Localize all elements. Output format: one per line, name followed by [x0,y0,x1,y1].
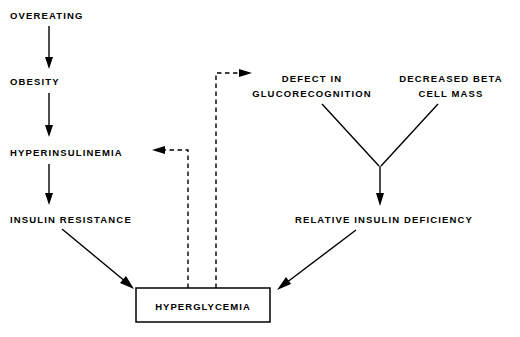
node-decreased-beta-cell-mass-line1: DECREASED BETA [399,73,503,84]
connector-insulin-resistance-to-hyperglycemia [62,229,134,289]
node-insulin-resistance: INSULIN RESISTANCE [10,214,132,225]
node-relative-insulin-deficiency: RELATIVE INSULIN DEFICIENCY [295,214,473,225]
connector-beta-cell-mass-to-junction [381,104,438,166]
connector-hyperinsulinemia-to-insulin-resistance [45,164,53,205]
node-hyperinsulinemia: HYPERINSULINEMIA [10,147,123,158]
node-hyperglycemia: HYPERGLYCEMIA [155,301,251,312]
node-decreased-beta-cell-mass-line2: CELL MASS [418,88,483,99]
flowchart-diagram: OVEREATING OBESITY HYPERINSULINEMIA INSU… [0,0,520,337]
connector-obesity-to-hyperinsulinemia [45,93,53,137]
connector-feedback-defect [216,69,252,288]
node-obesity: OBESITY [10,76,60,87]
connector-defect-to-junction [322,104,379,166]
node-defect-in-glucorecognition-line1: DEFECT IN [282,73,343,84]
connector-feedback-hyperinsulinemia [152,146,188,288]
connector-relative-insulin-deficiency-to-hyperglycemia [277,230,356,290]
node-defect-in-glucorecognition-line2: GLUCORECOGNITION [252,88,372,99]
node-overeating: OVEREATING [10,10,84,21]
connector-junction-to-relative-insulin-deficiency [376,166,384,206]
connector-overeating-to-obesity [45,26,53,69]
flowchart-canvas: OVEREATING OBESITY HYPERINSULINEMIA INSU… [0,0,520,337]
